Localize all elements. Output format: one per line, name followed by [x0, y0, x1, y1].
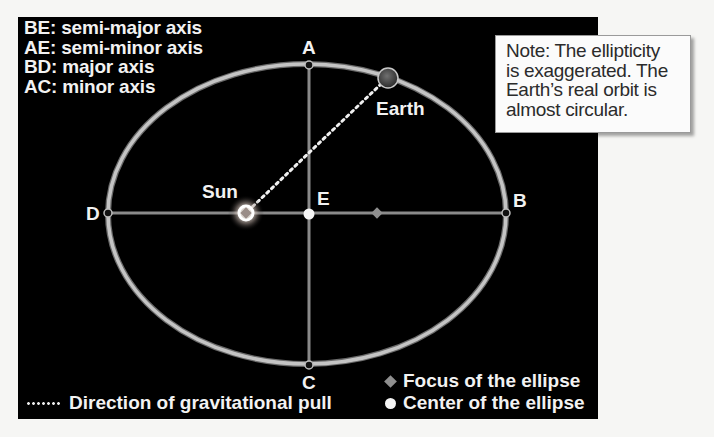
legend-focus-label: Focus of the ellipse — [403, 371, 580, 391]
legend-focus: Focus of the ellipse — [382, 371, 580, 391]
focus-diamond-icon — [371, 207, 382, 218]
gravitational-pull-line — [248, 84, 381, 211]
label-sun: Sun — [202, 182, 238, 202]
note-box: Note: The ellipticity is exaggerated. Th… — [495, 35, 691, 133]
label-e: E — [317, 189, 330, 209]
point-d — [104, 209, 112, 217]
label-earth: Earth — [376, 99, 425, 119]
label-d: D — [86, 204, 100, 224]
axis-key: BE: semi-major axis AE: semi-minor axis … — [24, 18, 203, 96]
note-line: Note: The ellipticity — [506, 41, 690, 61]
key-line: AC: minor axis — [24, 77, 203, 97]
label-b: B — [513, 191, 527, 211]
point-a — [305, 61, 313, 69]
legend-gravity: Direction of gravitational pull — [26, 393, 332, 413]
diamond-icon — [384, 375, 397, 388]
legend-center: Center of the ellipse — [382, 393, 585, 413]
legend-center-label: Center of the ellipse — [403, 393, 585, 413]
circle-icon — [385, 398, 396, 409]
point-c — [305, 361, 313, 369]
note-line: almost circular. — [506, 100, 690, 120]
key-line: BD: major axis — [24, 57, 203, 77]
key-line: BE: semi-major axis — [24, 18, 203, 38]
dotted-line-icon — [26, 402, 60, 405]
center-point-e — [304, 209, 315, 220]
earth-icon — [378, 68, 398, 88]
key-line: AE: semi-minor axis — [24, 38, 203, 58]
label-a: A — [302, 38, 316, 58]
point-b — [502, 209, 510, 217]
note-line: is exaggerated. The — [506, 61, 690, 81]
label-c: C — [302, 373, 316, 393]
legend-gravity-label: Direction of gravitational pull — [69, 393, 332, 413]
note-line: Earth’s real orbit is — [506, 80, 690, 100]
